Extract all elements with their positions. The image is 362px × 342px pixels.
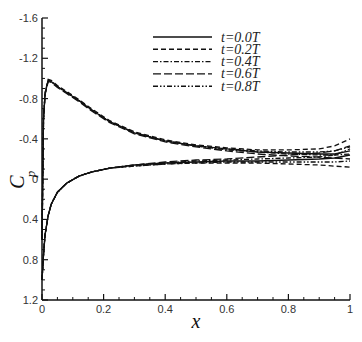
x-tick-label: 1: [347, 303, 353, 315]
y-tick-label: 0.8: [23, 254, 38, 266]
series-t02T-lower: [42, 163, 350, 280]
y-tick-label: -0.4: [19, 133, 38, 145]
series-t06T-lower: [42, 146, 350, 280]
y-tick-label: 0.4: [23, 213, 38, 225]
series-t08T-lower: [42, 161, 350, 280]
y-tick-label: -0.8: [19, 93, 38, 105]
x-axis-title: x: [191, 310, 201, 332]
y-tick-label: -1.2: [19, 52, 38, 64]
plot-series: [42, 79, 350, 280]
y-tick-label: 1.2: [23, 294, 38, 306]
y-tick-label: -1.6: [19, 12, 38, 24]
series-t04T-lower: [42, 149, 350, 280]
pressure-coefficient-chart: 00.20.40.60.81-1.6-1.2-0.8-0.400.40.81.2…: [0, 0, 362, 342]
x-tick-label: 0: [39, 303, 45, 315]
svg-text:p: p: [23, 170, 38, 178]
x-tick-label: 0.2: [96, 303, 111, 315]
x-tick-label: 0.8: [281, 303, 296, 315]
legend: t=0.0Tt=0.2Tt=0.4Tt=0.6Tt=0.8T: [153, 30, 261, 94]
x-tick-label: 0.4: [158, 303, 173, 315]
y-axis-title-subscript: p: [23, 170, 38, 178]
legend-label: t=0.8T: [221, 79, 261, 94]
x-tick-label: 0.6: [219, 303, 234, 315]
